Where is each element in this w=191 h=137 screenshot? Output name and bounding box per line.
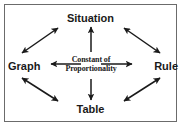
node-label-table: Table [0, 103, 181, 115]
concept-map-diagram: Situation Graph Rule Table Constant of P… [0, 0, 191, 137]
center-label-line-1: Constant of [46, 55, 136, 64]
node-label-situation: Situation [0, 12, 181, 24]
arrow-table-rule [124, 78, 160, 101]
center-label-constant-of-proportionality: Constant of Proportionality [46, 55, 136, 73]
center-label-line-2: Proportionality [46, 64, 136, 73]
arrow-graph-table [22, 78, 58, 101]
arrow-graph-situation [22, 28, 58, 53]
arrow-situation-rule [124, 28, 160, 53]
node-label-rule: Rule [134, 60, 178, 72]
